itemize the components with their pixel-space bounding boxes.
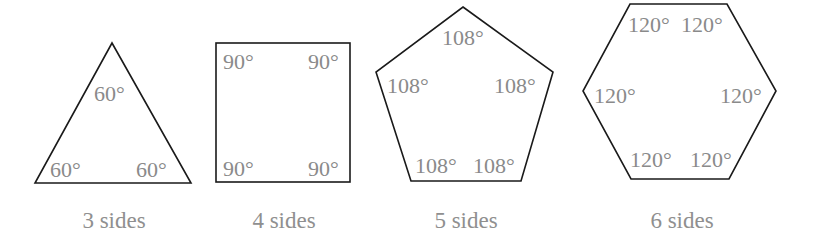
- triangle-angle-bottom-right: 60°: [136, 157, 167, 182]
- triangle-angle-top: 60°: [94, 81, 125, 106]
- pentagon-angle-bottom-right: 108°: [473, 153, 515, 178]
- hexagon-figure: 120° 120° 120° 120° 120° 120° 6 sides: [583, 4, 776, 233]
- hexagon-angle-right: 120°: [720, 83, 762, 108]
- triangle-caption: 3 sides: [82, 208, 145, 233]
- square-angle-top-left: 90°: [223, 49, 254, 74]
- pentagon-angle-left: 108°: [387, 73, 429, 98]
- square-angle-bottom-right: 90°: [308, 156, 339, 181]
- square-figure: 90° 90° 90° 90° 4 sides: [216, 43, 350, 233]
- hexagon-angle-bottom-right: 120°: [690, 147, 732, 172]
- pentagon-angle-top: 108°: [442, 25, 484, 50]
- pentagon-caption: 5 sides: [434, 208, 497, 233]
- triangle-figure: 60° 60° 60° 3 sides: [35, 43, 191, 233]
- square-angle-bottom-left: 90°: [223, 156, 254, 181]
- polygon-angles-diagram: 60° 60° 60° 3 sides 90° 90° 90° 90° 4 si…: [0, 0, 817, 241]
- hexagon-angle-top-left: 120°: [628, 12, 670, 37]
- pentagon-figure: 108° 108° 108° 108° 108° 5 sides: [376, 7, 553, 233]
- hexagon-caption: 6 sides: [650, 208, 713, 233]
- square-angle-top-right: 90°: [308, 49, 339, 74]
- triangle-angle-bottom-left: 60°: [50, 157, 81, 182]
- hexagon-angle-bottom-left: 120°: [630, 147, 672, 172]
- hexagon-angle-top-right: 120°: [681, 12, 723, 37]
- pentagon-angle-bottom-left: 108°: [415, 153, 457, 178]
- hexagon-angle-left: 120°: [594, 83, 636, 108]
- pentagon-angle-right: 108°: [494, 73, 536, 98]
- square-caption: 4 sides: [252, 208, 315, 233]
